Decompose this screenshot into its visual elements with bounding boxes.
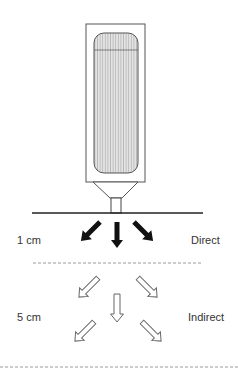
arrow-down-right-hollow-icon — [134, 274, 162, 302]
indirect-distance-label: 5 cm — [17, 311, 41, 323]
arrow-down-left-hollow-icon — [75, 274, 103, 302]
device-funnel — [93, 182, 138, 198]
arrow-down-right-solid-icon — [129, 217, 157, 245]
device-nozzle — [111, 198, 121, 213]
arrow-down-left-hollow-icon — [71, 318, 99, 346]
direct-type-label: Direct — [191, 234, 220, 246]
arrow-down-hollow-icon — [111, 294, 124, 322]
indirect-arrows — [71, 274, 166, 346]
arrow-down-solid-icon — [111, 222, 123, 248]
indirect-type-label: Indirect — [188, 311, 224, 323]
arrow-down-right-hollow-icon — [138, 318, 166, 346]
arrow-down-left-solid-icon — [76, 217, 104, 245]
direct-arrows — [76, 217, 157, 248]
device-canister — [94, 33, 138, 173]
direct-distance-label: 1 cm — [17, 234, 41, 246]
device — [86, 24, 145, 213]
